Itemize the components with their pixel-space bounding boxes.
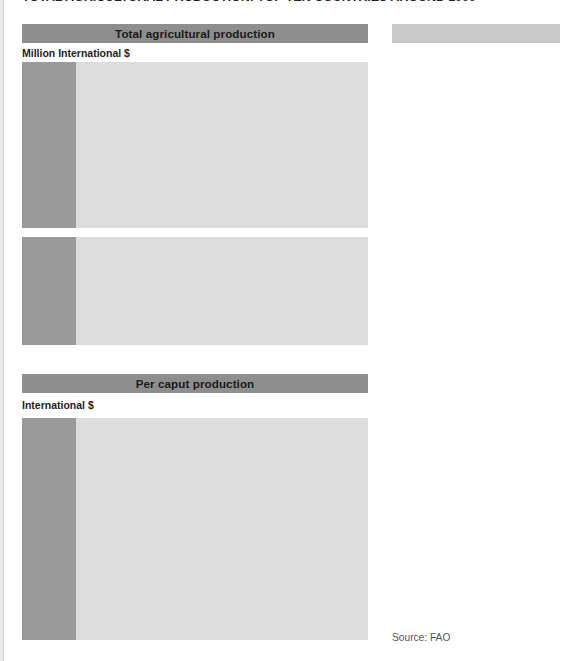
chart1-upper-panel xyxy=(22,62,368,228)
chart1-lower-axis-band xyxy=(22,237,76,345)
chart1-upper-axis-band xyxy=(22,62,76,228)
chart1-lower-panel xyxy=(22,237,368,345)
chart2-header: Per caput production xyxy=(22,374,368,393)
legend-header-bar xyxy=(392,24,560,43)
page-edge-line xyxy=(3,0,4,661)
chart1-upper-plot xyxy=(76,62,368,228)
page-title: TOTAL AGRICULTURAL PRODUCTION: TOP TEN C… xyxy=(22,0,562,8)
chart2-plot xyxy=(76,418,368,640)
chart1-lower-plot xyxy=(76,237,368,345)
source-note: Source: FAO xyxy=(392,632,450,643)
chart2-axis-band xyxy=(22,418,76,640)
chart2-panel xyxy=(22,418,368,640)
chart1-unit-label: Million International $ xyxy=(22,47,130,59)
chart1-header: Total agricultural production xyxy=(22,24,368,43)
chart2-unit-label: International $ xyxy=(22,399,94,411)
